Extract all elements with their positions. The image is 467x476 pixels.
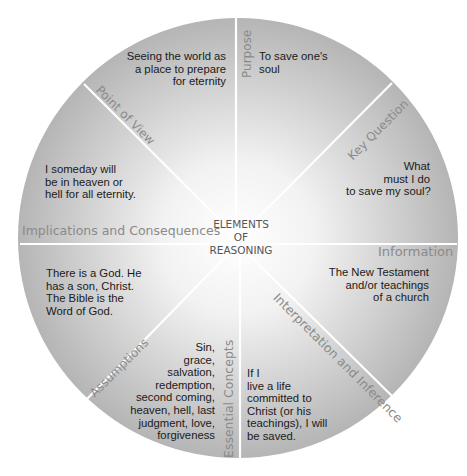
segment-text-implications-consequences: I someday will be in heaven or hell for … [45, 163, 136, 201]
segment-label-information: Information [378, 244, 453, 259]
center-title-line3: REASONING [196, 244, 286, 257]
segment-text-information: The New Testament and/or teachings of a … [326, 266, 429, 304]
segment-text-assumptions: There is a God. He has a son, Christ. Th… [46, 267, 141, 317]
segment-text-key-question: What must I do to save my soul? [346, 160, 430, 198]
segment-label-implications-consequences: Implications and Consequences [22, 223, 220, 238]
segment-text-essential-concepts: Sin, grace, salvation, redemption, secon… [128, 341, 215, 442]
segment-text-purpose: To save one's soul [259, 50, 328, 75]
segment-label-essential-concepts: Essential Concepts [221, 340, 236, 458]
segment-text-point-of-view: Seeing the world as a place to prepare f… [118, 50, 226, 88]
segment-text-interpretation-inference: If I live a life committed to Christ (or… [247, 367, 327, 443]
segment-label-purpose: Purpose [240, 30, 254, 78]
